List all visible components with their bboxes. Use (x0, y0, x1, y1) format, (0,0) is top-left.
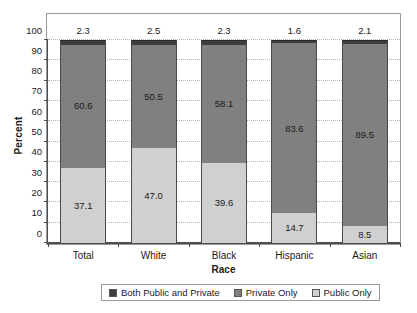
bar-segment[interactable]: 60.6 (60, 45, 106, 168)
x-axis-tick-label: White (141, 250, 167, 261)
legend-swatch-icon (234, 289, 242, 297)
bar-segment[interactable]: 8.5 (342, 226, 388, 243)
x-axis-tick-label: Asian (352, 250, 377, 261)
bar-segment[interactable]: 14.7 (271, 213, 317, 243)
x-axis-tick-mark (48, 243, 49, 247)
bar-segment[interactable]: 83.6 (271, 43, 317, 213)
bar-value-label: 47.0 (144, 191, 163, 201)
bar-value-label-above: 2.5 (147, 25, 160, 36)
legend-label: Public Only (324, 288, 372, 298)
x-axis-tick-label: Black (212, 250, 236, 261)
bar-group[interactable]: 8.589.52.1Asian (330, 40, 400, 243)
plot-frame: 010203040506070809010037.160.62.3Total47… (46, 13, 401, 245)
legend-item[interactable]: Both Public and Private (109, 288, 220, 298)
bar-segment[interactable]: 58.1 (201, 45, 247, 163)
bar-segment[interactable]: 47.0 (131, 148, 177, 243)
bar-segment[interactable]: 50.5 (131, 45, 177, 148)
bar-group[interactable]: 37.160.62.3Total (48, 40, 118, 243)
legend-label: Private Only (246, 288, 298, 298)
bar-value-label: 8.5 (358, 230, 371, 240)
y-axis-tick-label: 50 (31, 126, 42, 137)
legend-item[interactable]: Public Only (312, 288, 372, 298)
stacked-bar-chart: Percent 010203040506070809010037.160.62.… (0, 0, 417, 313)
y-axis-tick-label: 100 (26, 24, 42, 35)
y-axis-tick-label: 90 (31, 44, 42, 55)
bar-value-label: 60.6 (74, 101, 93, 111)
x-axis-tick-mark (118, 243, 119, 247)
bar-value-label: 39.6 (215, 198, 234, 208)
y-axis-tick-label: 10 (31, 207, 42, 218)
x-axis-tick-mark (259, 243, 260, 247)
x-axis-tick-mark (189, 243, 190, 247)
y-axis-tick-label: 60 (31, 105, 42, 116)
x-axis-tick-label: Hispanic (275, 250, 313, 261)
y-axis-tick-label: 70 (31, 85, 42, 96)
y-axis-tick-label: 80 (31, 65, 42, 76)
bar-segment[interactable]: 37.1 (60, 168, 106, 243)
bar-segment[interactable] (131, 40, 177, 45)
x-axis-tick-mark (400, 243, 401, 247)
bar-segment[interactable] (60, 40, 106, 45)
bar-stack[interactable]: 14.783.61.6 (271, 40, 317, 243)
bar-segment[interactable] (271, 40, 317, 43)
bar-stack[interactable]: 47.050.52.5 (131, 40, 177, 243)
bar-value-label: 83.6 (285, 124, 304, 134)
x-axis-tick-label: Total (73, 250, 94, 261)
legend-swatch-icon (109, 289, 117, 297)
bar-group[interactable]: 14.783.61.6Hispanic (259, 40, 329, 243)
bar-value-label: 14.7 (285, 223, 304, 233)
bar-value-label-above: 2.3 (77, 25, 90, 36)
legend-item[interactable]: Private Only (234, 288, 298, 298)
bar-segment[interactable] (201, 40, 247, 45)
bar-value-label: 50.5 (144, 92, 163, 102)
bar-stack[interactable]: 39.658.12.3 (201, 40, 247, 243)
bar-value-label: 58.1 (215, 99, 234, 109)
bar-segment[interactable]: 39.6 (201, 163, 247, 243)
bar-value-label-above: 2.1 (358, 25, 371, 36)
bar-value-label: 89.5 (356, 130, 375, 140)
chart-legend: Both Public and PrivatePrivate OnlyPubli… (101, 284, 380, 301)
y-axis-tick-label: 30 (31, 166, 42, 177)
bar-group[interactable]: 39.658.12.3Black (189, 40, 259, 243)
plot-area: 010203040506070809010037.160.62.3Total47… (47, 40, 400, 244)
bar-stack[interactable]: 8.589.52.1 (342, 40, 388, 243)
y-axis-tick-label: 40 (31, 146, 42, 157)
x-axis-title: Race (46, 264, 401, 275)
bar-stack[interactable]: 37.160.62.3 (60, 40, 106, 243)
legend-swatch-icon (312, 289, 320, 297)
y-axis-tick-label: 0 (37, 227, 42, 238)
y-axis-tick-label: 20 (31, 186, 42, 197)
bar-segment[interactable] (342, 40, 388, 44)
legend-label: Both Public and Private (121, 288, 220, 298)
bar-value-label: 37.1 (74, 201, 93, 211)
bar-group[interactable]: 47.050.52.5White (118, 40, 188, 243)
bar-value-label-above: 1.6 (288, 25, 301, 36)
bar-segment[interactable]: 89.5 (342, 44, 388, 226)
bar-value-label-above: 2.3 (217, 25, 230, 36)
y-axis-title: Percent (13, 96, 24, 176)
x-axis-tick-mark (330, 243, 331, 247)
